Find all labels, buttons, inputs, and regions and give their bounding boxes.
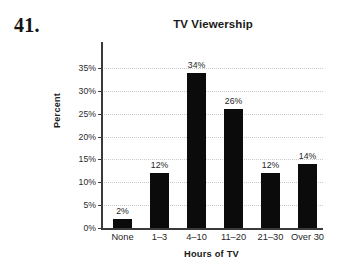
y-tick-label: 10%	[79, 178, 96, 187]
bar-value-label: 34%	[178, 61, 215, 70]
bar-group: 26%11–20	[215, 42, 252, 228]
bar-value-label: 14%	[289, 152, 326, 161]
y-tick-label: 25%	[79, 109, 96, 118]
y-tick-label: 15%	[79, 155, 96, 164]
bar-group: 2%None	[104, 42, 141, 228]
x-tick-label: None	[102, 232, 143, 242]
x-axis-title: Hours of TV	[101, 249, 322, 259]
bar-value-label: 12%	[252, 161, 289, 170]
x-tick-label: 11–20	[213, 232, 254, 242]
bar	[150, 173, 169, 228]
bar	[187, 73, 206, 228]
plot-area: 0%5%10%15%20%25%30%35% 2%None12%1–334%4–…	[101, 42, 322, 228]
chart-screenshot: 41. TV Viewership Percent 0%5%10%15%20%2…	[0, 0, 337, 272]
bar-group: 14%Over 30	[289, 42, 326, 228]
bar	[224, 109, 243, 228]
bar-group: 12%1–3	[141, 42, 178, 228]
y-tick-label: 30%	[79, 86, 96, 95]
x-tick-label: 4–10	[176, 232, 217, 242]
chart-title: TV Viewership	[103, 18, 323, 30]
x-axis-spine	[101, 228, 323, 230]
y-tick-label: 5%	[83, 201, 96, 210]
bar	[113, 219, 132, 228]
y-axis-spine	[101, 42, 103, 229]
y-axis-title: Percent	[52, 93, 62, 128]
figure-number: 41.	[14, 14, 40, 37]
y-tick-label: 35%	[79, 64, 96, 73]
bar-group: 34%4–10	[178, 42, 215, 228]
x-tick-label: 21–30	[250, 232, 291, 242]
bar-value-label: 2%	[104, 207, 141, 216]
y-tick-label: 20%	[79, 132, 96, 141]
x-tick-label: 1–3	[139, 232, 180, 242]
bar	[298, 164, 317, 228]
bar-group: 12%21–30	[252, 42, 289, 228]
x-tick-label: Over 30	[287, 232, 328, 242]
y-tick-label: 0%	[83, 224, 96, 233]
bar	[261, 173, 280, 228]
bar-value-label: 12%	[141, 161, 178, 170]
bar-value-label: 26%	[215, 97, 252, 106]
